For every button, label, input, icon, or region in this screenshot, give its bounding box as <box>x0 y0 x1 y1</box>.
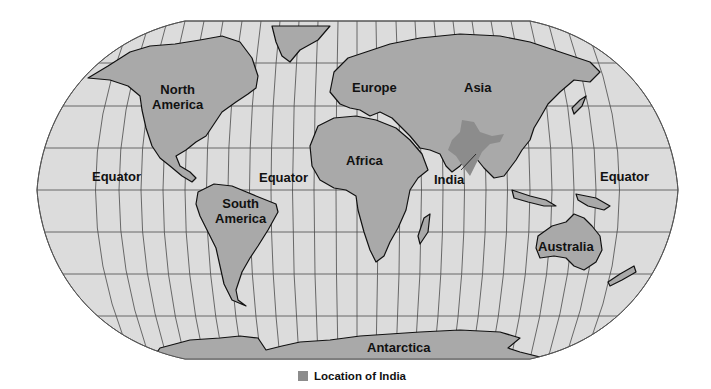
legend: Location of India <box>298 370 406 382</box>
label-north-america: North America <box>152 82 203 112</box>
label-antarctica: Antarctica <box>367 340 431 355</box>
label-equator-right: Equator <box>600 169 649 184</box>
label-south-america: South America <box>215 196 266 226</box>
label-south-america-line1: South <box>215 196 266 211</box>
legend-swatch <box>298 371 308 381</box>
label-australia: Australia <box>538 239 594 254</box>
label-europe: Europe <box>352 80 397 95</box>
label-equator-center: Equator <box>259 170 308 185</box>
label-equator-left: Equator <box>92 169 141 184</box>
label-asia: Asia <box>464 80 491 95</box>
label-india: India <box>434 172 464 187</box>
label-north-america-line2: America <box>152 97 203 112</box>
label-north-america-line1: North <box>152 82 203 97</box>
label-south-america-line2: America <box>215 211 266 226</box>
label-africa: Africa <box>346 153 383 168</box>
world-map <box>0 0 711 389</box>
legend-label: Location of India <box>314 370 406 382</box>
